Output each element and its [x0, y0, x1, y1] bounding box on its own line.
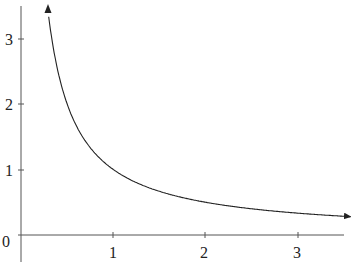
y-tick-label-2: 2: [5, 96, 13, 113]
y-tick-label-3: 3: [5, 31, 13, 48]
y-tick-label-1: 1: [5, 162, 13, 179]
x-tick-label-3: 3: [293, 244, 301, 261]
curve-1-over-x: [49, 17, 351, 217]
origin-label: 0: [2, 233, 10, 250]
chart: 0 1 2 3 1 2 3: [0, 0, 351, 273]
x-tick-label-1: 1: [109, 244, 117, 261]
x-tick-label-2: 2: [200, 244, 208, 261]
arrow-up-icon: [45, 4, 52, 13]
